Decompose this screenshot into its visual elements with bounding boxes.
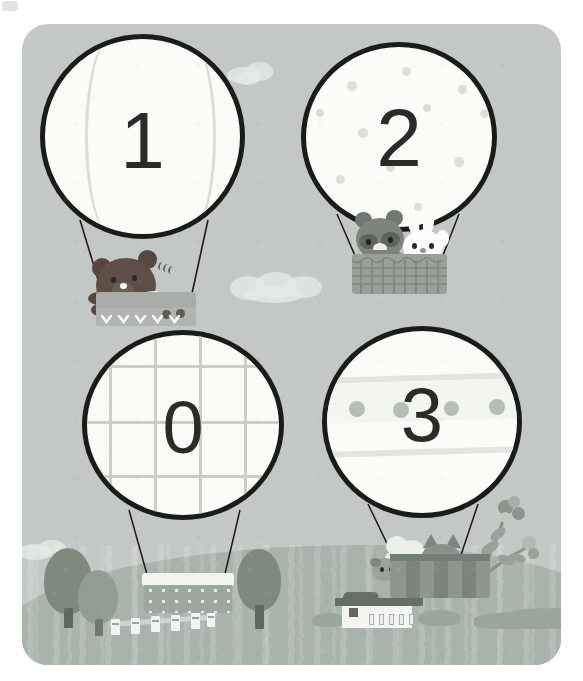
envelope-grid-line [87,475,279,478]
flower-bloom [512,507,525,520]
rabbit-nose [420,248,426,253]
envelope-grid-line [87,365,279,368]
balloon-zero-number: 0 [87,391,279,465]
sheep-eye [380,567,384,572]
raccoon-eye [366,239,371,245]
bear-nose [120,283,127,289]
balloon-three-number: 3 [327,377,517,453]
sheep-ear [370,558,381,567]
balloon-three-basket [390,554,490,598]
bear-eye [132,275,137,281]
bear-eye [111,277,116,283]
rabbit-paw [436,230,449,247]
basket-chevron-pattern [100,314,192,326]
illustration-card: 1 [22,24,561,665]
envelope-dot [347,81,357,91]
envelope-dot [458,85,467,94]
illustration-scene: 1 [0,0,583,681]
rabbit-eye [412,243,417,249]
balloon-zero[interactable]: 0 [82,330,297,610]
balloon-zero-envelope: 0 [82,330,284,520]
balloon-two-envelope: 2 [301,42,497,232]
basket-weave-pattern [352,254,447,294]
flower-bloom [528,548,539,559]
corner-artifact [2,1,18,11]
bear-wave-lines [158,262,176,284]
flower-bloom [500,512,511,523]
envelope-dot [402,67,411,76]
balloon-two-basket [352,254,447,294]
balloon-two[interactable]: 2 [301,42,501,332]
raccoon-eye [388,237,393,243]
balloon-three-envelope: 3 [322,326,522,518]
balloon-one[interactable]: 1 [40,34,250,334]
balloon-two-number: 2 [306,97,492,179]
balloon-three[interactable]: 3 [322,326,537,616]
white-picket-fence [110,615,215,637]
balloon-one-envelope: 1 [40,34,245,239]
balloon-zero-basket [142,573,234,613]
balloon-one-number: 1 [45,101,240,181]
rabbit-eye [429,243,434,249]
balloon-one-basket [96,292,196,326]
